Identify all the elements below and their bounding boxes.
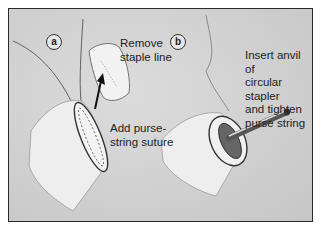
caption-insert-anvil: Insert anvil of circular stapler and tig… [245, 49, 312, 130]
illustration-frame: a b Remove staple line Add purse- string… [8, 8, 313, 222]
caption-remove-staple-line: Remove staple line [120, 37, 172, 64]
caption-add-purse-string: Add purse- string suture [110, 122, 173, 149]
panel-label-b: b [170, 34, 186, 50]
suture-thread-icon [206, 15, 229, 111]
suture-thread-icon [13, 41, 71, 101]
panel-label-a: a [46, 34, 62, 50]
suture-thread-icon [80, 19, 83, 101]
